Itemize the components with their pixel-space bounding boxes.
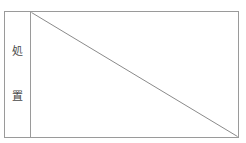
- axis-label-char-2: 置: [12, 91, 23, 103]
- axis-label-column: 処 置: [5, 12, 31, 137]
- diagonal-line-svg: [31, 12, 238, 137]
- plot-area: [31, 12, 238, 137]
- diagram-frame: 処 置: [4, 11, 239, 138]
- diagonal-line: [31, 13, 237, 137]
- top-caption-fragment: — ——— · — ·: [12, 0, 212, 2]
- axis-label-char-1: 処: [12, 46, 23, 58]
